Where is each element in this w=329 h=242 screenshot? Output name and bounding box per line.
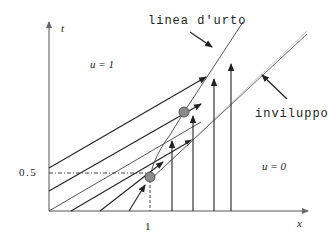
- y-axis-label: t: [61, 22, 65, 34]
- characteristic-line: [49, 77, 206, 168]
- characteristic-line: [71, 140, 192, 211]
- right-state-label: u = 0: [262, 160, 286, 172]
- shock-point-marker: [179, 107, 189, 117]
- envelope-label: inviluppo: [255, 107, 329, 121]
- y-tick-05: 0.5: [19, 166, 37, 178]
- shock-start-marker: [145, 172, 155, 182]
- shock-annotation-arrow: [190, 32, 212, 47]
- shock-curve: [150, 22, 243, 177]
- characteristic-line: [100, 162, 163, 211]
- envelope-annotation-arrow: [262, 75, 287, 99]
- x-axis-label: x: [296, 217, 302, 229]
- characteristics-diagram: t x 1 0.5 u = 1 u = 0 linea d'urto invil…: [0, 0, 329, 242]
- left-state-label: u = 1: [90, 58, 114, 70]
- diagram-canvas: t x 1 0.5 u = 1 u = 0 linea d'urto invil…: [0, 0, 329, 242]
- shock-label: linea d'urto: [148, 14, 246, 28]
- characteristic-line: [49, 122, 201, 211]
- characteristic-line: [129, 185, 145, 211]
- x-tick-1: 1: [145, 220, 151, 232]
